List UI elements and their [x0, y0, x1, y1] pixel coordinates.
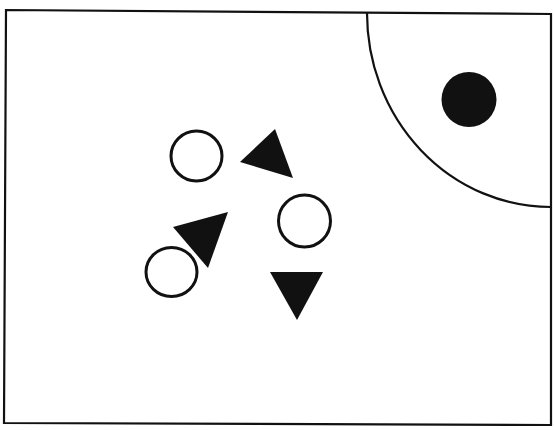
filled-circles-group — [442, 72, 497, 127]
filled-circle-in-region — [442, 72, 497, 127]
background — [0, 0, 554, 430]
diagram-canvas — [0, 0, 554, 430]
